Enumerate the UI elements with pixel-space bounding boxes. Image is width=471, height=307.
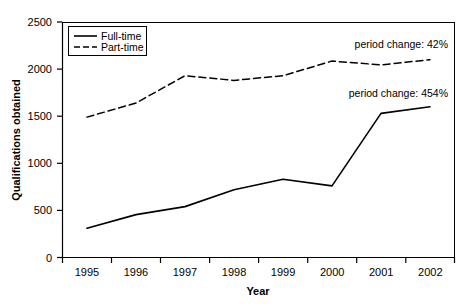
- y-tick-label-2000: 2000: [28, 63, 52, 75]
- x-tick-label-2001: 2001: [369, 266, 393, 278]
- x-tick-label-1995: 1995: [75, 266, 99, 278]
- annotation-full-time-change: period change: 454%: [349, 87, 448, 99]
- line-chart: 0 500 1000 1500 2000 2500 Qualifications…: [0, 0, 471, 307]
- y-tick-label-2500: 2500: [28, 16, 52, 28]
- x-tick-label-1997: 1997: [173, 266, 197, 278]
- y-axis-title: Qualifications obtained: [10, 79, 22, 201]
- x-tick-label-2000: 2000: [320, 266, 344, 278]
- y-tick-label-0: 0: [46, 252, 52, 264]
- legend-label-part-time: Part-time: [101, 41, 144, 53]
- y-tick-label-1000: 1000: [28, 157, 52, 169]
- x-tick-label-1996: 1996: [124, 266, 148, 278]
- chart-canvas: 0 500 1000 1500 2000 2500 Qualifications…: [0, 0, 471, 307]
- x-axis-title: Year: [246, 285, 270, 297]
- legend: Full-time Part-time: [69, 27, 147, 56]
- y-tick-label-500: 500: [34, 204, 52, 216]
- annotation-part-time-change: period change: 42%: [355, 38, 448, 50]
- x-tick-label-1998: 1998: [222, 266, 246, 278]
- x-tick-label-2002: 2002: [418, 266, 442, 278]
- x-tick-label-1999: 1999: [271, 266, 295, 278]
- y-tick-label-1500: 1500: [28, 110, 52, 122]
